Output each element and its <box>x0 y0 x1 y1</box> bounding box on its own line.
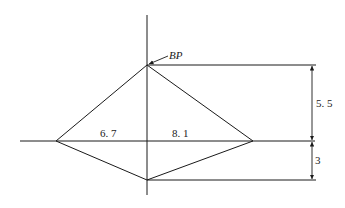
edge-bottom-right <box>147 141 253 180</box>
lower-height-label: 3 <box>315 154 321 166</box>
right-width-label: 8. 1 <box>172 127 189 139</box>
edge-top-right <box>147 65 253 141</box>
upper-height-label: 5. 5 <box>316 97 333 109</box>
kite-diagram: BP 6. 7 8. 1 5. 5 3 <box>0 0 345 208</box>
edge-bottom-left <box>56 141 147 180</box>
bp-leader-line <box>149 56 168 64</box>
bp-label: BP <box>169 49 183 61</box>
left-width-label: 6. 7 <box>100 127 117 139</box>
